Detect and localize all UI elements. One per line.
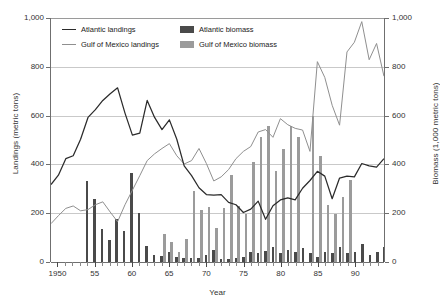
line-swatch-icon (62, 44, 76, 45)
y-axis-right-title: Biomass (1,000 metric tons) (431, 64, 440, 204)
x-axis-tick-mark (87, 262, 88, 266)
x-axis-tick-mark (162, 262, 163, 266)
y-axis-right-tick-label: 1,000 (392, 13, 432, 22)
x-axis-tick-label: 80 (266, 269, 296, 278)
x-axis-tick-mark (378, 262, 379, 266)
x-axis-tick-label: 60 (117, 269, 147, 278)
x-axis-tick-label: 90 (340, 269, 370, 278)
x-axis-tick-mark (311, 262, 312, 266)
bar-swatch-icon (180, 41, 194, 48)
x-axis-tick-mark (296, 262, 297, 266)
x-axis-tick-mark (244, 262, 245, 267)
legend-label: Atlantic landings (81, 26, 136, 34)
x-axis-tick-mark (363, 262, 364, 266)
x-axis-tick-mark (65, 262, 66, 266)
x-axis-tick-mark (281, 262, 282, 267)
y-axis-left-tick-label: 600 (4, 111, 44, 120)
x-axis-tick-mark (124, 262, 125, 266)
y-axis-right-tick-mark (385, 262, 389, 263)
x-axis-tick-mark (221, 262, 222, 266)
legend-item-gulf-biomass: Gulf of Mexico biomass (180, 41, 287, 49)
y-axis-right-tick-mark (385, 18, 389, 19)
x-axis-tick-mark (348, 262, 349, 266)
legend-item-atlantic-landings: Atlantic landings (62, 26, 180, 34)
x-axis-tick-label: 65 (154, 269, 184, 278)
y-axis-left-tick-mark (46, 164, 50, 165)
y-axis-right-tick-label: 600 (392, 111, 432, 120)
x-axis-tick-mark (355, 262, 356, 267)
y-axis-right-tick-label: 200 (392, 208, 432, 217)
x-axis-tick-mark (258, 262, 259, 266)
x-axis-tick-mark (288, 262, 289, 266)
x-axis-tick-label: 75 (229, 269, 259, 278)
y-axis-right-tick-label: 400 (392, 159, 432, 168)
legend-label: Gulf of Mexico biomass (199, 41, 277, 49)
x-axis-tick-mark (206, 262, 207, 267)
y-axis-right-tick-label: 0 (392, 257, 432, 266)
y-axis-right-tick-mark (385, 164, 389, 165)
y-axis-right-tick-mark (385, 67, 389, 68)
x-axis-tick-mark (139, 262, 140, 266)
legend-item-gulf-landings: Gulf of Mexico landings (62, 41, 180, 49)
x-axis-tick-label: 55 (80, 269, 110, 278)
x-axis-tick-mark (303, 262, 304, 266)
x-axis-tick-mark (273, 262, 274, 266)
plot-area (50, 18, 385, 262)
x-axis-tick-mark (251, 262, 252, 266)
x-axis-tick-mark (229, 262, 230, 266)
x-axis-tick-mark (184, 262, 185, 266)
legend-label: Atlantic biomass (199, 26, 254, 34)
legend-item-atlantic-biomass: Atlantic biomass (180, 26, 287, 34)
y-axis-left-tick-mark (46, 213, 50, 214)
x-axis-tick-mark (214, 262, 215, 266)
x-axis-tick-mark (191, 262, 192, 266)
y-axis-left-tick-label: 400 (4, 159, 44, 168)
x-axis-tick-mark (80, 262, 81, 266)
x-axis-tick-label: 1950 (42, 269, 72, 278)
y-axis-right-tick-label: 800 (392, 62, 432, 71)
x-axis-tick-mark (95, 262, 96, 267)
data-line (51, 88, 384, 219)
x-axis-tick-mark (199, 262, 200, 266)
gridline (51, 262, 384, 263)
x-axis-title: Year (50, 288, 385, 297)
x-axis-tick-mark (117, 262, 118, 266)
x-axis-tick-mark (340, 262, 341, 266)
x-axis-tick-mark (266, 262, 267, 266)
y-axis-left-tick-label: 1,000 (4, 13, 44, 22)
x-axis-tick-mark (318, 262, 319, 267)
y-axis-left-tick-mark (46, 116, 50, 117)
bar-swatch-icon (180, 26, 194, 33)
y-axis-left-tick-label: 800 (4, 62, 44, 71)
legend-label: Gulf of Mexico landings (81, 41, 159, 49)
y-axis-right-tick-mark (385, 116, 389, 117)
x-axis-tick-mark (325, 262, 326, 266)
y-axis-left-tick-mark (46, 262, 50, 263)
y-axis-left-tick-mark (46, 67, 50, 68)
x-axis-tick-mark (72, 262, 73, 266)
x-axis-tick-mark (236, 262, 237, 266)
x-axis-tick-mark (132, 262, 133, 267)
x-axis-tick-mark (147, 262, 148, 266)
line-layer (51, 18, 384, 261)
line-swatch-icon (62, 29, 76, 30)
y-axis-right-tick-mark (385, 213, 389, 214)
x-axis-tick-label: 85 (303, 269, 333, 278)
x-axis-tick-mark (177, 262, 178, 266)
x-axis-tick-mark (110, 262, 111, 266)
y-axis-left-tick-label: 0 (4, 257, 44, 266)
x-axis-tick-mark (154, 262, 155, 266)
legend: Atlantic landings Atlantic biomass Gulf … (62, 22, 287, 54)
x-axis-tick-mark (102, 262, 103, 266)
y-axis-left-tick-mark (46, 18, 50, 19)
y-axis-left-title: Landings (metric tons) (11, 74, 20, 194)
x-axis-tick-mark (333, 262, 334, 266)
x-axis-tick-mark (57, 262, 58, 267)
x-axis-tick-mark (169, 262, 170, 267)
x-axis-tick-label: 70 (191, 269, 221, 278)
y-axis-left-tick-label: 200 (4, 208, 44, 217)
x-axis-tick-mark (370, 262, 371, 266)
